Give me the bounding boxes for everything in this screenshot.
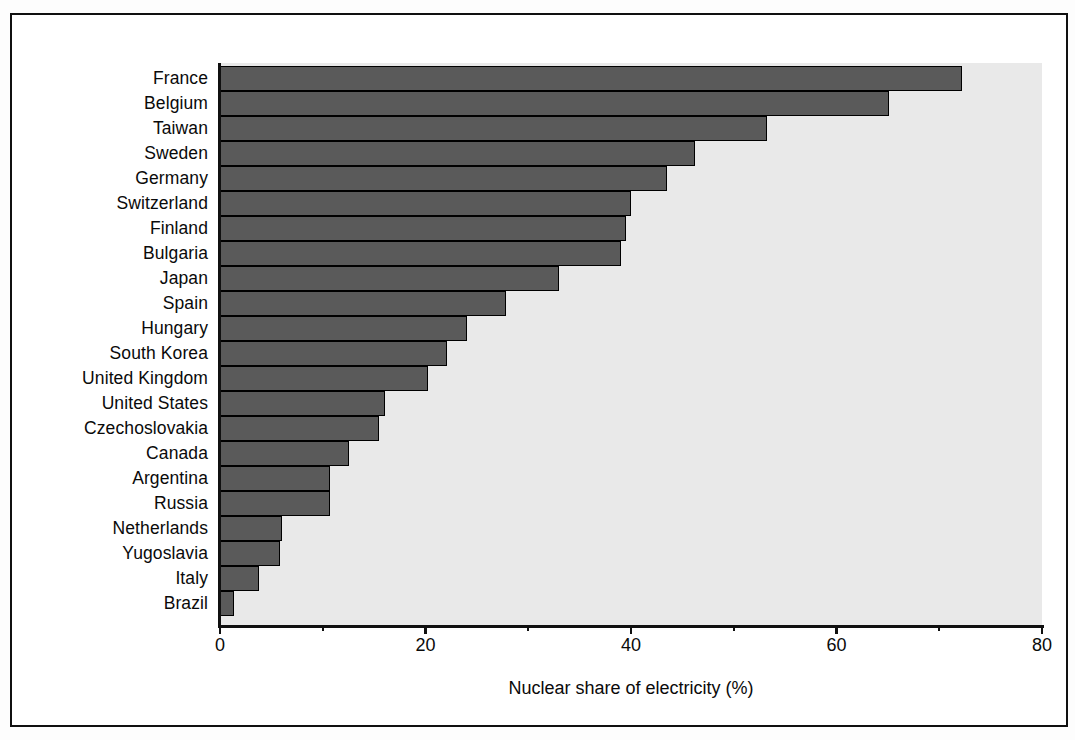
bar — [220, 116, 767, 141]
x-tick-minor-10 — [322, 625, 324, 631]
y-axis-label-united-states: United States — [12, 391, 208, 416]
bar — [220, 341, 447, 366]
bar — [220, 441, 349, 466]
bar — [220, 466, 330, 491]
bar — [220, 541, 280, 566]
y-axis-line — [218, 63, 221, 628]
x-tick-major-0 — [219, 625, 222, 634]
y-axis-label-japan: Japan — [12, 266, 208, 291]
x-tick-major-20 — [424, 625, 427, 634]
y-axis-label-germany: Germany — [12, 166, 208, 191]
bar — [220, 366, 428, 391]
y-axis-category-labels: FranceBelgiumTaiwanSwedenGermanySwitzerl… — [12, 66, 208, 616]
x-tick-minor-70 — [938, 625, 940, 631]
bar — [220, 316, 467, 341]
bar — [220, 141, 695, 166]
y-axis-label-bulgaria: Bulgaria — [12, 241, 208, 266]
bar — [220, 166, 667, 191]
y-axis-label-belgium: Belgium — [12, 91, 208, 116]
bar — [220, 566, 259, 591]
y-axis-label-hungary: Hungary — [12, 316, 208, 341]
bar — [220, 591, 234, 616]
x-tick-minor-50 — [733, 625, 735, 631]
y-axis-label-finland: Finland — [12, 216, 208, 241]
y-axis-label-czechoslovakia: Czechoslovakia — [12, 416, 208, 441]
y-axis-label-south-korea: South Korea — [12, 341, 208, 366]
bar — [220, 191, 631, 216]
y-axis-label-france: France — [12, 66, 208, 91]
y-axis-label-yugoslavia: Yugoslavia — [12, 541, 208, 566]
y-axis-label-taiwan: Taiwan — [12, 116, 208, 141]
bar — [220, 416, 379, 441]
y-axis-label-switzerland: Switzerland — [12, 191, 208, 216]
x-tick-label-60: 60 — [802, 635, 872, 656]
y-axis-label-argentina: Argentina — [12, 466, 208, 491]
x-tick-minor-30 — [527, 625, 529, 631]
x-tick-label-0: 0 — [185, 635, 255, 656]
bar — [220, 241, 621, 266]
y-axis-label-canada: Canada — [12, 441, 208, 466]
x-tick-major-60 — [835, 625, 838, 634]
y-axis-label-sweden: Sweden — [12, 141, 208, 166]
bar — [220, 216, 626, 241]
x-tick-major-80 — [1041, 625, 1044, 634]
y-axis-label-spain: Spain — [12, 291, 208, 316]
y-axis-label-netherlands: Netherlands — [12, 516, 208, 541]
y-axis-label-russia: Russia — [12, 491, 208, 516]
x-tick-major-40 — [630, 625, 633, 634]
bar — [220, 291, 506, 316]
bar — [220, 266, 559, 291]
y-axis-label-brazil: Brazil — [12, 591, 208, 616]
y-axis-label-united-kingdom: United Kingdom — [12, 366, 208, 391]
bar — [220, 491, 330, 516]
y-axis-label-italy: Italy — [12, 566, 208, 591]
x-tick-label-20: 20 — [391, 635, 461, 656]
bar — [220, 516, 282, 541]
x-tick-label-80: 80 — [1007, 635, 1075, 656]
x-axis-title: Nuclear share of electricity (%) — [220, 678, 1042, 699]
figure-page: FranceBelgiumTaiwanSwedenGermanySwitzerl… — [0, 0, 1075, 740]
bar-series — [220, 66, 1042, 616]
bar — [220, 66, 962, 91]
bar — [220, 391, 385, 416]
bar — [220, 91, 889, 116]
figure-frame: FranceBelgiumTaiwanSwedenGermanySwitzerl… — [10, 13, 1068, 727]
x-tick-label-40: 40 — [596, 635, 666, 656]
